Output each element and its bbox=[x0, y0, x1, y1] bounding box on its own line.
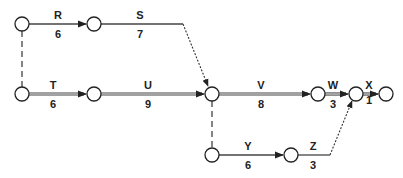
activity-label-s: S bbox=[136, 9, 143, 21]
event-node bbox=[205, 87, 219, 101]
activity-duration-z: 3 bbox=[310, 159, 316, 171]
activity-duration-s: 7 bbox=[137, 28, 143, 40]
event-node bbox=[15, 87, 29, 101]
event-node bbox=[87, 87, 101, 101]
activity-label-u: U bbox=[144, 79, 152, 91]
activity-duration-w: 3 bbox=[330, 98, 336, 110]
event-node bbox=[311, 87, 325, 101]
activity-label-r: R bbox=[54, 9, 62, 21]
activity-label-y: Y bbox=[244, 140, 252, 152]
event-node bbox=[284, 148, 298, 162]
activity-label-v: V bbox=[257, 79, 265, 91]
activity-duration-x: 1 bbox=[366, 94, 372, 106]
activity-duration-t: 6 bbox=[50, 98, 56, 110]
activity-duration-v: 8 bbox=[258, 98, 264, 110]
activity-arrow-s-dotted bbox=[183, 24, 208, 86]
network-diagram: R 6 S 7 T 6 U 9 V 8 W 3 X 1 Y 6 Z 3 bbox=[0, 0, 403, 178]
event-node bbox=[205, 148, 219, 162]
activity-duration-r: 6 bbox=[55, 28, 61, 40]
activity-label-z: Z bbox=[310, 140, 317, 152]
activity-duration-y: 6 bbox=[245, 159, 251, 171]
activity-duration-u: 9 bbox=[145, 98, 151, 110]
activity-label-x: X bbox=[365, 79, 373, 91]
activity-label-t: T bbox=[50, 79, 57, 91]
event-node bbox=[379, 87, 393, 101]
event-node bbox=[349, 87, 363, 101]
activity-label-w: W bbox=[328, 79, 339, 91]
event-node bbox=[87, 17, 101, 31]
event-node bbox=[15, 17, 29, 31]
